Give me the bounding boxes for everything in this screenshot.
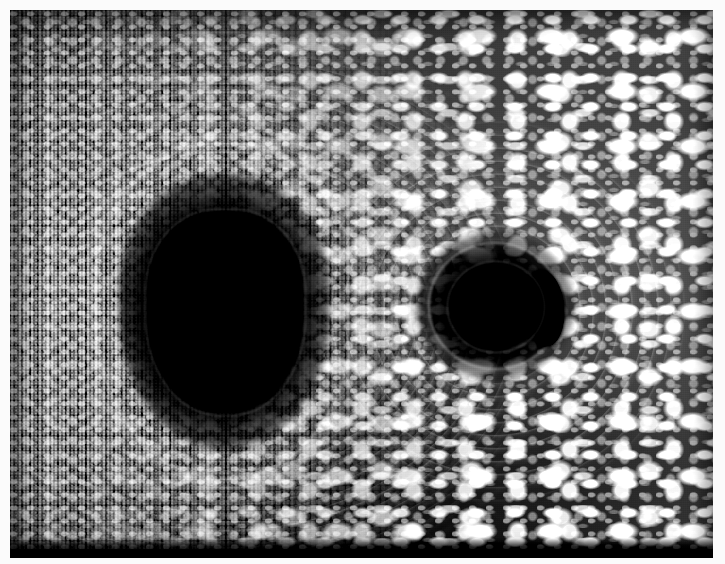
figure-container <box>0 0 725 564</box>
secondary-shadow-rim <box>447 261 545 354</box>
primary-shadow-rim <box>145 209 306 416</box>
bottom-dark-strip-solid <box>10 549 713 558</box>
lensing-image-plate <box>10 10 713 558</box>
